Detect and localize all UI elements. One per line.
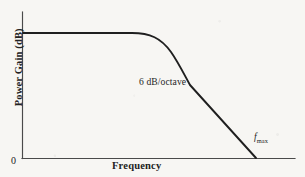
figure-container: Power Gain (dB) Frequency 0 6 dB/octave … xyxy=(0,0,305,177)
fmax-label: fmax xyxy=(254,133,268,144)
plot-canvas xyxy=(0,0,305,177)
y-axis-label: Power Gain (dB) xyxy=(14,15,25,119)
fmax-subscript: max xyxy=(257,137,268,144)
response-curve xyxy=(23,33,256,158)
slope-annotation-label: 6 dB/octave xyxy=(139,77,186,87)
origin-tick-label: 0 xyxy=(11,156,16,166)
x-axis-label: Frequency xyxy=(112,161,161,172)
